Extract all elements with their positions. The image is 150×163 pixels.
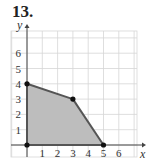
y-tick-label: 3 [16, 93, 22, 105]
y-axis-label: y [16, 18, 23, 32]
x-tick-label: 5 [101, 147, 107, 159]
y-tick-label: 5 [16, 63, 22, 75]
y-tick-label: 4 [16, 78, 22, 90]
x-axis-label: x [139, 147, 146, 161]
x-tick-label: 4 [85, 147, 91, 159]
x-tick-label: 3 [70, 147, 76, 159]
vertex-point [24, 81, 29, 86]
feasible-region-chart: 123456123456xy [0, 0, 150, 163]
x-tick-label: 2 [55, 147, 61, 159]
y-tick-label: 1 [16, 124, 22, 136]
vertex-point [24, 142, 29, 147]
vertex-point [70, 97, 75, 102]
y-axis-arrow-icon [25, 24, 30, 28]
x-tick-label: 6 [116, 147, 122, 159]
y-tick-label: 2 [16, 108, 22, 120]
y-tick-label: 6 [16, 47, 22, 59]
x-tick-label: 1 [40, 147, 46, 159]
